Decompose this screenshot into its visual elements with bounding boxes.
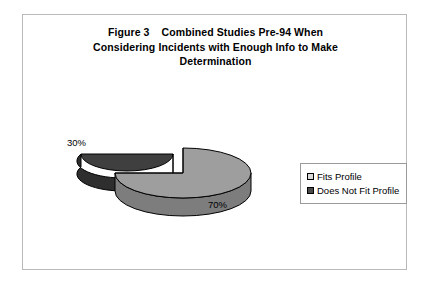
pie-data-label-fits-profile: 70%: [208, 199, 227, 210]
legend-label-fits-profile: Fits Profile: [317, 171, 362, 182]
legend-swatch-icon-fits-profile: [307, 173, 314, 180]
legend-swatch-icon-does-not-fit-profile: [307, 187, 314, 194]
pie-data-label-does-not-fit-profile: 30%: [67, 137, 86, 148]
legend-label-does-not-fit-profile: Does Not Fit Profile: [317, 185, 399, 196]
legend-item-does-not-fit-profile[interactable]: Does Not Fit Profile: [307, 184, 399, 197]
chart-legend: Fits Profile Does Not Fit Profile: [300, 163, 407, 204]
chart-frame: Figure 3 Combined Studies Pre-94 When Co…: [22, 14, 407, 270]
pie-chart: 70% 30%: [23, 15, 408, 271]
pie-slice-1-top: [81, 154, 173, 171]
legend-item-fits-profile[interactable]: Fits Profile: [307, 170, 399, 183]
